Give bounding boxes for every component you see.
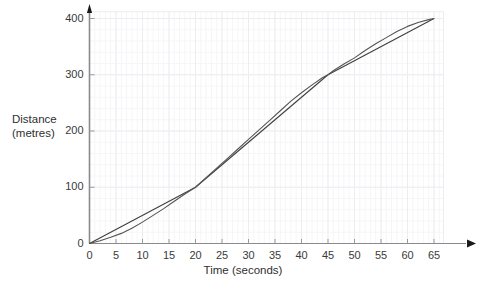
- y-axis-title-line1: Distance: [12, 112, 57, 126]
- x-tick-label: 45: [314, 250, 342, 261]
- x-axis-title: Time (seconds): [0, 265, 486, 277]
- axes-group: [90, 10, 467, 244]
- y-axis-arrow: [87, 4, 92, 13]
- x-axis-arrow: [467, 240, 476, 248]
- y-tick-label: 300: [52, 69, 84, 80]
- distance-time-graph: Distance (metres) Time (seconds) 0510152…: [0, 0, 486, 284]
- x-tick-label: 0: [76, 250, 104, 261]
- y-tick-label: 200: [52, 125, 84, 136]
- y-tick-label: 400: [52, 13, 84, 24]
- x-tick-label: 55: [367, 250, 395, 261]
- x-tick-label: 60: [394, 250, 422, 261]
- x-tick-label: 5: [102, 250, 130, 261]
- x-tick-label: 50: [341, 250, 369, 261]
- x-tick-label: 40: [288, 250, 316, 261]
- y-axis-title-line2: (metres): [12, 126, 57, 140]
- x-tick-label: 15: [155, 250, 183, 261]
- x-tick-label: 20: [182, 250, 210, 261]
- y-axis-title: Distance (metres): [12, 112, 57, 141]
- y-tick-label: 0: [52, 238, 84, 249]
- y-tick-label: 100: [52, 181, 84, 192]
- x-tick-label: 35: [261, 250, 289, 261]
- x-tick-label: 10: [129, 250, 157, 261]
- x-tick-label: 25: [208, 250, 236, 261]
- x-tick-label: 30: [235, 250, 263, 261]
- x-tick-label: 65: [420, 250, 448, 261]
